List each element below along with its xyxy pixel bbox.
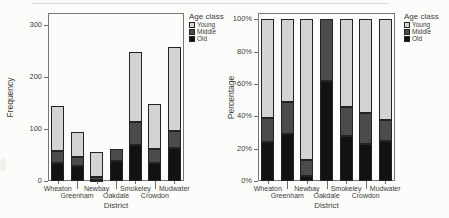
legend-title: Age class xyxy=(189,12,247,21)
x-axis-title: District xyxy=(258,202,395,210)
bar-segment-middle xyxy=(261,118,274,142)
bar-segment-middle xyxy=(300,160,313,176)
bar-segment-young xyxy=(359,19,372,113)
bar-segment-young xyxy=(340,19,353,106)
legend-swatch-young xyxy=(404,22,410,28)
bar-segment-middle xyxy=(281,102,294,134)
bar-segment-old xyxy=(340,136,353,181)
y-axis-tick xyxy=(254,181,258,182)
x-category-label: Mudwater xyxy=(359,185,411,192)
bar-segment-young xyxy=(281,19,294,101)
bar-segment-middle xyxy=(359,113,372,144)
legend-label: Old xyxy=(197,36,207,43)
bar-segment-young xyxy=(300,19,313,160)
legend-items: YoungMiddleOld xyxy=(404,22,449,43)
legend-items: YoungMiddleOld xyxy=(189,22,247,43)
bar-segment-young xyxy=(379,19,392,119)
legend-swatch-old xyxy=(189,36,195,42)
bar-segment-old xyxy=(281,134,294,181)
legend-title: Age class xyxy=(404,12,449,21)
legend-percentage-chart: Age class YoungMiddleOld xyxy=(404,12,449,43)
x-category-label: Crowdon xyxy=(340,192,392,199)
legend-item-old: Old xyxy=(404,36,449,43)
legend-item-old: Old xyxy=(189,36,247,43)
y-axis-tick xyxy=(254,149,258,150)
y-axis-tick xyxy=(254,52,258,53)
legend-swatch-young xyxy=(189,22,195,28)
y-axis-tick xyxy=(254,116,258,117)
bar-segment-old xyxy=(261,142,274,181)
y-axis-tick xyxy=(254,84,258,85)
legend-label: Old xyxy=(412,36,422,43)
bar-segment-young xyxy=(261,19,274,118)
legend-swatch-old xyxy=(404,36,410,42)
bar-segment-middle xyxy=(340,107,353,136)
legend-swatch-middle xyxy=(404,29,410,35)
legend-frequency-chart: Age class YoungMiddleOld xyxy=(189,12,247,43)
legend-swatch-middle xyxy=(189,29,195,35)
bar-segment-old xyxy=(359,144,372,181)
scanned-figure-page: { "figure": { "legend": { "title": "Age … xyxy=(0,0,449,218)
bar-segment-middle xyxy=(320,19,333,80)
y-axis-tick xyxy=(254,19,258,20)
bar-segment-middle xyxy=(379,120,392,141)
bar-segment-old xyxy=(379,141,392,181)
bar-segment-old xyxy=(320,81,333,181)
legend-item-middle: Middle xyxy=(404,29,449,36)
